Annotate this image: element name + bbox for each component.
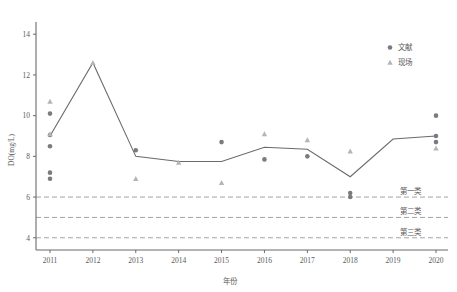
reference-line-labels-group: 第一类第二类第三类 [400, 186, 422, 237]
chart-container: 468101214 201120122013201420152016201720… [0, 0, 457, 292]
x-tick-label: 2018 [343, 256, 358, 265]
y-tick-label: 14 [23, 30, 31, 39]
reference-line-label-2: 第二类 [400, 206, 422, 216]
legend-label-2: 现场 [398, 58, 413, 67]
data-point-literature [348, 191, 353, 196]
y-tick-label: 10 [23, 111, 31, 120]
data-point-literature [262, 157, 267, 162]
legend-label-1: 文献 [398, 42, 413, 52]
x-tick-label: 2020 [429, 256, 444, 265]
data-point-literature [434, 134, 439, 139]
plot-background [0, 0, 457, 292]
y-tick-label: 8 [26, 152, 30, 161]
x-tick-label: 2014 [171, 256, 186, 265]
data-point-literature [219, 140, 224, 145]
data-point-literature [48, 170, 53, 175]
reference-line-label-3: 第三类 [400, 227, 422, 237]
data-point-literature [305, 154, 310, 159]
x-tick-label: 2015 [214, 256, 229, 265]
y-axis-title: DO(mg/L) [7, 133, 16, 166]
data-point-literature [48, 176, 53, 181]
data-point-literature [48, 111, 53, 116]
reference-line-label-1: 第一类 [400, 186, 422, 196]
x-tick-label: 2012 [85, 256, 100, 265]
do-trend-chart: 468101214 201120122013201420152016201720… [0, 0, 457, 292]
data-point-literature [348, 195, 353, 200]
data-point-literature [434, 113, 439, 118]
x-axis-title: 年份 [223, 276, 238, 286]
y-tick-label: 4 [26, 234, 30, 243]
y-tick-label: 12 [23, 71, 31, 80]
data-point-literature [48, 144, 53, 149]
x-tick-label: 2011 [43, 256, 58, 265]
x-tick-label: 2013 [128, 256, 143, 265]
legend-marker-circle [388, 45, 393, 50]
x-tick-label: 2019 [386, 256, 401, 265]
data-point-literature [133, 148, 138, 153]
x-tick-label: 2016 [257, 256, 272, 265]
data-point-literature [434, 140, 439, 145]
x-tick-label: 2017 [300, 256, 315, 265]
y-tick-label: 6 [26, 193, 30, 202]
